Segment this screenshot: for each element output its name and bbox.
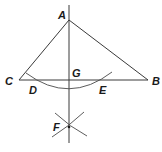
arc-from-d [55, 113, 87, 136]
construction-diagram: A C G B D E F [0, 0, 162, 152]
segment-ab [69, 20, 148, 80]
label-g: G [72, 67, 81, 79]
label-e: E [99, 84, 107, 96]
label-a: A [57, 9, 66, 21]
label-f: F [53, 121, 60, 133]
label-b: B [152, 75, 160, 87]
segment-ac [19, 20, 69, 80]
label-d: D [29, 84, 37, 96]
label-c: C [5, 75, 14, 87]
point-f-dot [68, 126, 71, 129]
